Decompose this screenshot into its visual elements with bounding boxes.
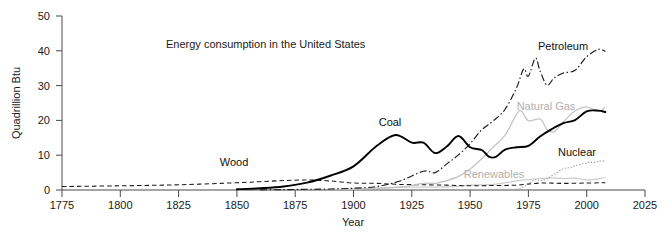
series-annotations: Wood Coal Petroleum Natural Gas Nuclear … [220,40,597,180]
x-tick-label-1950: 1950 [458,199,482,211]
x-tick-label-1850: 1850 [225,199,249,211]
x-tick-label-1875: 1875 [283,199,307,211]
x-tick-label-1775: 1775 [50,199,74,211]
annotation-coal: Coal [379,116,402,128]
annotation-natural-gas: Natural Gas [517,100,576,112]
series-line-wood [62,180,605,187]
x-tick-group: 1775 1800 1825 1850 1875 1900 1925 1950 … [50,190,657,211]
x-tick-label-1825: 1825 [166,199,190,211]
x-tick-label-2025: 2025 [633,199,657,211]
y-tick-label-50: 50 [38,10,50,22]
y-tick-group: 50 40 30 20 10 0 [38,10,62,196]
x-tick-label-2000: 2000 [574,199,598,211]
annotation-renewables: Renewables [464,168,525,180]
x-tick-label-1925: 1925 [400,199,424,211]
y-axis-title: Quadrillion Btu [10,67,22,139]
annotation-wood: Wood [220,156,249,168]
energy-consumption-chart: 50 40 30 20 10 0 1775 1800 1825 1850 187… [0,0,670,233]
annotation-petroleum: Petroleum [538,40,588,52]
y-tick-label-0: 0 [44,184,50,196]
x-tick-label-1900: 1900 [341,199,365,211]
y-tick-label-40: 40 [38,45,50,57]
y-tick-label-20: 20 [38,114,50,126]
chart-title: Energy consumption in the United States [166,38,366,50]
x-tick-label-1800: 1800 [108,199,132,211]
annotation-nuclear: Nuclear [558,146,596,158]
x-axis-title: Year [342,216,365,228]
x-tick-label-1975: 1975 [516,199,540,211]
chart-canvas: 50 40 30 20 10 0 1775 1800 1825 1850 187… [0,0,670,233]
series-line-petroleum [260,49,605,190]
y-tick-label-30: 30 [38,80,50,92]
y-tick-label-10: 10 [38,149,50,161]
